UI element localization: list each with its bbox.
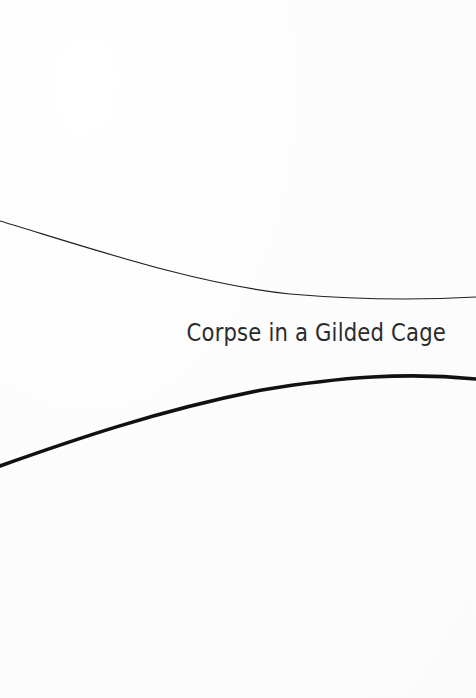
upper-thin-curve [0,221,476,299]
book-title-page: Corpse in a Gilded Cage [0,0,476,698]
page-title: Corpse in a Gilded Cage [187,318,446,348]
lower-thick-curve [0,376,476,466]
title-block: Corpse in a Gilded Cage [0,318,446,348]
decorative-curves [0,0,476,698]
